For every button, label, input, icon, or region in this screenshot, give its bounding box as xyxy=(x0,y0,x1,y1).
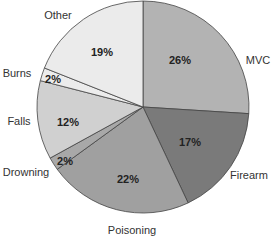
label-poisoning: Poisoning xyxy=(108,224,156,236)
slice-mvc xyxy=(143,1,249,114)
label-firearm: Firearm xyxy=(230,169,268,181)
label-mvc: MVC xyxy=(246,54,271,66)
pct-burns: 2% xyxy=(45,73,61,85)
pie-slices xyxy=(37,1,249,213)
pct-firearm: 17% xyxy=(179,136,201,148)
label-burns: Burns xyxy=(3,67,32,79)
pct-poisoning: 22% xyxy=(117,173,139,185)
pct-falls: 12% xyxy=(57,116,79,128)
pct-drowning: 2% xyxy=(57,155,73,167)
label-falls: Falls xyxy=(7,115,31,127)
pct-other: 19% xyxy=(91,46,113,58)
pct-mvc: 26% xyxy=(169,54,191,66)
pie-chart: 26% 17% 22% 2% 12% 2% 19% MVC Firearm Po… xyxy=(0,0,278,245)
label-drowning: Drowning xyxy=(3,166,49,178)
label-other: Other xyxy=(44,9,72,21)
